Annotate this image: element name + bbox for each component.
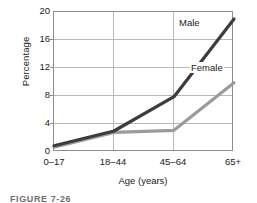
x-tick-label-45-64: 45–64 xyxy=(150,156,196,167)
y-tick-label-12: 12 xyxy=(32,62,50,72)
line-male xyxy=(54,19,234,146)
y-tick-label-8: 8 xyxy=(32,90,50,100)
y-tick-label-4: 4 xyxy=(32,118,50,128)
series-label-female: Female xyxy=(190,62,224,73)
figure-caption: FIGURE 7-26 xyxy=(10,194,71,203)
y-axis-tick-labels: 20 16 12 8 4 0 xyxy=(28,0,50,203)
series-plot xyxy=(54,12,234,152)
x-tick-label-0-17: 0–17 xyxy=(31,156,77,167)
series-label-male: Male xyxy=(178,17,201,28)
x-tick-label-18-44: 18–44 xyxy=(90,156,136,167)
y-tick-label-20: 20 xyxy=(32,6,50,16)
x-tick-label-65plus: 65+ xyxy=(210,156,256,167)
y-tick-label-16: 16 xyxy=(32,34,50,44)
plot-inner xyxy=(54,12,232,150)
x-axis-title: Age (years) xyxy=(53,175,233,186)
plot-area xyxy=(53,11,233,151)
y-tick-label-0: 0 xyxy=(32,146,50,156)
figure-container: Percentage 20 16 12 8 4 0 xyxy=(0,0,257,203)
